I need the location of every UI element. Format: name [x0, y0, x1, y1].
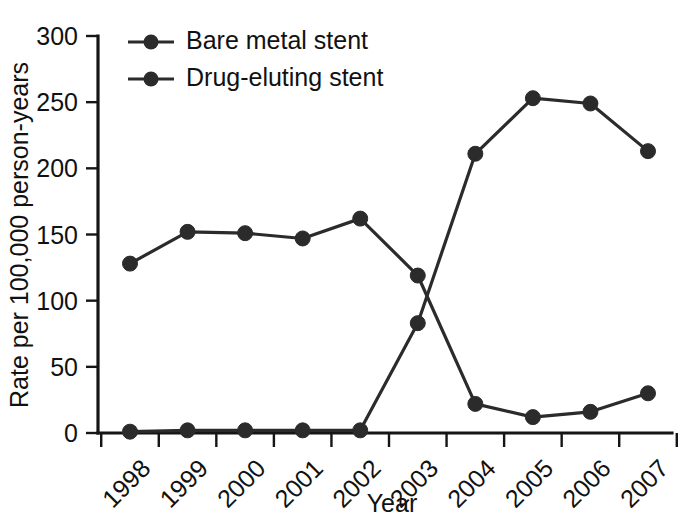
y-axis-ticks [86, 36, 98, 433]
y-axis-title: Rate per 100,000 person-years [5, 62, 33, 408]
data-point-marker [468, 146, 483, 161]
data-point-marker [123, 256, 138, 271]
data-series-layer [123, 91, 656, 439]
data-point-marker [641, 144, 656, 159]
x-tick-label: 2006 [557, 454, 616, 513]
legend-label: Drug-eluting stent [186, 63, 383, 91]
data-point-marker [180, 423, 195, 438]
data-point-marker [583, 404, 598, 419]
legend-label: Bare metal stent [186, 26, 368, 54]
data-point-marker [410, 268, 425, 283]
data-point-marker [238, 226, 253, 241]
data-point-marker [468, 396, 483, 411]
x-tick-label: 2000 [212, 454, 271, 513]
data-point-marker [295, 423, 310, 438]
y-tick-label: 150 [36, 221, 78, 249]
x-tick-label: 1999 [154, 454, 213, 513]
data-point-marker [295, 231, 310, 246]
legend-marker-icon [144, 72, 159, 87]
data-point-marker [238, 423, 253, 438]
x-tick-label: 1998 [96, 454, 155, 513]
x-tick-label: 2001 [269, 454, 328, 513]
series-line [130, 219, 648, 418]
legend-item: Bare metal stent [128, 26, 368, 54]
data-point-marker [525, 410, 540, 425]
data-point-marker [641, 386, 656, 401]
x-tick-label: 2004 [442, 454, 501, 513]
legend-item: Drug-eluting stent [128, 63, 383, 91]
series-1 [123, 211, 656, 425]
chart-figure: 050100150200250300 Rate per 100,000 pers… [0, 0, 689, 523]
y-tick-label: 0 [64, 419, 78, 447]
y-tick-label: 250 [36, 88, 78, 116]
x-tick-label: 2005 [499, 454, 558, 513]
series-line [130, 98, 648, 431]
data-point-marker [525, 91, 540, 106]
y-tick-label: 300 [36, 22, 78, 50]
data-point-marker [410, 316, 425, 331]
y-tick-label: 200 [36, 154, 78, 182]
x-axis-group: 1998199920002001200220032004200520062007… [96, 433, 676, 517]
data-point-marker [180, 224, 195, 239]
x-tick-label: 2007 [614, 454, 673, 513]
y-tick-label: 50 [50, 353, 78, 381]
series-2 [123, 91, 656, 439]
data-point-marker [353, 423, 368, 438]
data-point-marker [123, 424, 138, 439]
line-chart-svg: 050100150200250300 Rate per 100,000 pers… [0, 0, 689, 523]
x-axis-title: Year [367, 489, 418, 517]
chart-legend: Bare metal stentDrug-eluting stent [128, 26, 383, 91]
y-axis-group: 050100150200250300 Rate per 100,000 pers… [5, 22, 98, 447]
data-point-marker [583, 96, 598, 111]
legend-marker-icon [144, 35, 159, 50]
y-axis-tick-labels: 050100150200250300 [36, 22, 78, 447]
data-point-marker [353, 211, 368, 226]
y-tick-label: 100 [36, 287, 78, 315]
